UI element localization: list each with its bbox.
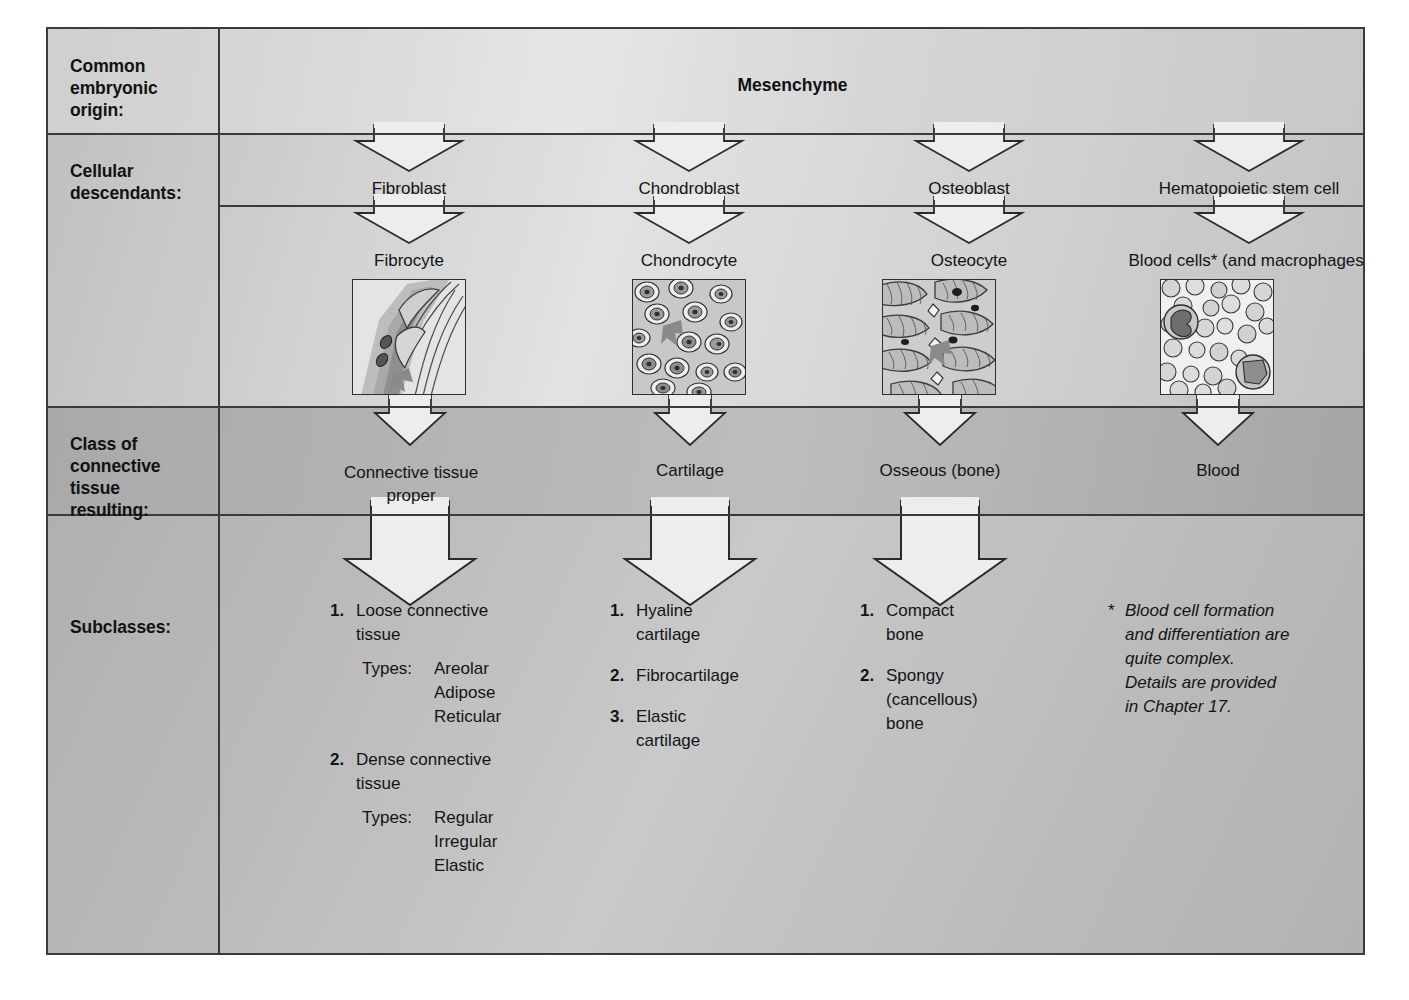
subclass-text: Fibrocartilage	[636, 666, 739, 685]
subclass-text: Spongy (cancellous) bone	[886, 666, 978, 733]
rule-origin-bottom	[48, 133, 1363, 135]
rule-subclasses-top	[48, 514, 1363, 516]
subclass-type: Irregular	[434, 830, 497, 854]
subclass-types-group: Types: Areolar Adipose Reticular	[330, 657, 560, 729]
row-label-subclasses: Subclasses:	[70, 616, 218, 638]
rule-class-top	[48, 406, 1363, 408]
class-label-osseous-bone: Osseous (bone)	[860, 461, 1020, 481]
subclass-text: Compact bone	[886, 601, 954, 644]
chondrocyte-micrograph-art	[633, 280, 746, 395]
subclass-number: 2.	[330, 748, 344, 772]
subclass-text: Dense connective tissue	[356, 750, 491, 793]
subclass-item: 1. Compact bone	[860, 599, 1060, 647]
subclass-text: Loose connective tissue	[356, 601, 488, 644]
subclass-type: Reticular	[434, 705, 501, 729]
cartilage-micrograph	[632, 279, 746, 395]
subclass-types-list: Regular Irregular Elastic	[434, 806, 497, 878]
cell-label-osteocyte: Osteocyte	[889, 251, 1049, 271]
fibrocyte-micrograph-art	[353, 280, 466, 395]
subclass-types-label: Types:	[362, 657, 434, 729]
arrow-connective-tissue-proper-to-subclasses	[339, 501, 481, 609]
mesenchyme-origin-label: Mesenchyme	[220, 75, 1365, 96]
chart-content-area: Mesenchyme Fibroblast Chondroblast Osteo…	[220, 29, 1365, 953]
label-column-divider	[218, 29, 220, 953]
subclass-text: Elastic cartilage	[636, 707, 700, 750]
subclass-item: 2. Dense connective tissue	[330, 748, 560, 796]
subclass-number: 1.	[610, 599, 624, 623]
cell-label-fibroblast: Fibroblast	[329, 179, 489, 199]
subclass-item: 1. Loose connective tissue	[330, 599, 560, 647]
row-label-cellular-descendants: Cellular descendants:	[70, 160, 218, 204]
class-label-ctp-line2: proper	[320, 484, 502, 507]
arrow-osteocyte-to-osseous-bone	[901, 395, 979, 449]
cell-label-chondrocyte: Chondrocyte	[609, 251, 769, 271]
class-label-ctp-line1: Connective tissue	[320, 461, 502, 484]
arrow-chondrocyte-to-cartilage	[651, 395, 729, 449]
subclass-number: 2.	[860, 664, 874, 688]
rule-blast-cyte	[220, 205, 1365, 207]
cell-label-hematopoietic-stem-cell: Hematopoietic stem cell	[1129, 179, 1365, 199]
class-label-cartilage: Cartilage	[610, 461, 770, 481]
footnote-marker: *	[1108, 599, 1115, 623]
class-label-connective-tissue-proper: Connective tissue proper	[320, 461, 502, 507]
osteocyte-micrograph-art	[883, 280, 996, 395]
subclass-item: 2. Spongy (cancellous) bone	[860, 664, 1060, 736]
row-label-common-embryonic-origin: Common embryonic origin:	[70, 55, 218, 121]
subclass-column-connective-tissue-proper: 1. Loose connective tissue Types: Areola…	[330, 599, 560, 897]
subclass-item: 1. Hyaline cartilage	[610, 599, 825, 647]
subclass-column-cartilage: 1. Hyaline cartilage 2. Fibrocartilage 3…	[610, 599, 825, 770]
class-label-blood: Blood	[1138, 461, 1298, 481]
cell-label-fibrocyte: Fibrocyte	[329, 251, 489, 271]
cell-label-blood-cells: Blood cells* (and macrophages)	[1119, 251, 1365, 271]
arrow-osseous-bone-to-subclasses	[869, 501, 1011, 609]
cell-label-chondroblast: Chondroblast	[609, 179, 769, 199]
arrow-cartilage-to-subclasses	[619, 501, 761, 609]
blood-cells-micrograph-art	[1161, 280, 1274, 395]
footnote-text: Blood cell formation and differentiation…	[1125, 601, 1289, 716]
blood-smear-micrograph	[1160, 279, 1274, 395]
subclass-item: 3. Elastic cartilage	[610, 705, 825, 753]
subclass-number: 2.	[610, 664, 624, 688]
subclass-column-osseous-bone: 1. Compact bone 2. Spongy (cancellous) b…	[860, 599, 1060, 753]
connective-tissue-flow-chart: Common embryonic origin: Cellular descen…	[46, 27, 1365, 955]
subclass-types-label: Types:	[362, 806, 434, 878]
row-label-subclasses-text: Subclasses:	[70, 617, 171, 637]
fibrous-connective-tissue-micrograph	[352, 279, 466, 395]
row-label-class-of-connective-tissue: Class of connective tissue resulting:	[70, 433, 218, 521]
osseous-bone-micrograph	[882, 279, 996, 395]
subclass-types-group: Types: Regular Irregular Elastic	[330, 806, 560, 878]
arrow-fibrocyte-to-connective-tissue-proper	[371, 395, 449, 449]
arrow-blood-cells-to-blood	[1179, 395, 1257, 449]
subclass-type: Elastic	[434, 854, 497, 878]
subclass-type: Areolar	[434, 657, 501, 681]
blood-footnote: * Blood cell formation and differentiati…	[1108, 599, 1365, 719]
subclass-number: 1.	[860, 599, 874, 623]
row-label-class-text: Class of connective tissue resulting:	[70, 434, 160, 520]
cell-label-osteoblast: Osteoblast	[889, 179, 1049, 199]
subclass-type: Regular	[434, 806, 497, 830]
row-label-origin-text: Common embryonic origin:	[70, 56, 158, 120]
subclass-text: Hyaline cartilage	[636, 601, 700, 644]
subclass-number: 3.	[610, 705, 624, 729]
subclass-types-list: Areolar Adipose Reticular	[434, 657, 501, 729]
subclass-item: 2. Fibrocartilage	[610, 664, 825, 688]
subclass-type: Adipose	[434, 681, 501, 705]
subclass-number: 1.	[330, 599, 344, 623]
row-label-descendants-text: Cellular descendants:	[70, 161, 182, 203]
